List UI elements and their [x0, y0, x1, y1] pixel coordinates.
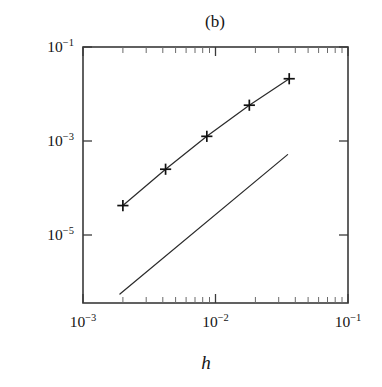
panel-title: (b)	[205, 12, 225, 31]
x-axis-title: h	[201, 352, 211, 373]
figure-background	[0, 0, 382, 387]
convergence-plot-svg: (b)	[0, 0, 382, 387]
chart-figure: (b)	[0, 0, 382, 387]
